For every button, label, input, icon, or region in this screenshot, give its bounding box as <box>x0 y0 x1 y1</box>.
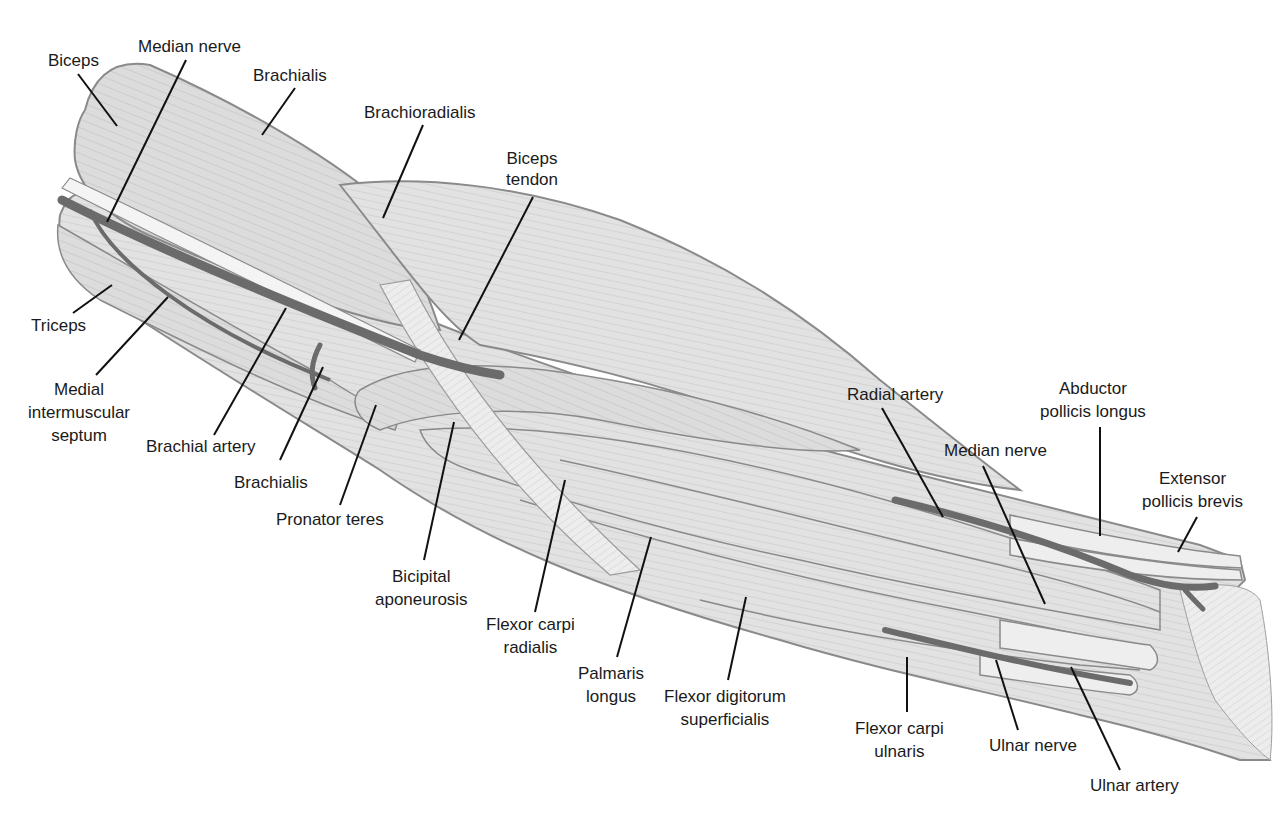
label-flexor-carpi-radialis: Flexor carpi radialis <box>486 613 575 659</box>
label-brachialis-top: Brachialis <box>253 65 327 86</box>
label-triceps: Triceps <box>31 315 86 336</box>
label-flexor-carpi-ulnaris: Flexor carpi ulnaris <box>855 717 944 763</box>
label-median-nerve-top: Median nerve <box>138 36 241 57</box>
label-brachial-artery: Brachial artery <box>146 436 256 457</box>
label-pronator-teres: Pronator teres <box>276 509 384 530</box>
anatomy-diagram: Biceps Median nerve Brachialis Brachiora… <box>0 0 1288 815</box>
label-abductor-pollicis-longus: Abductor pollicis longus <box>1040 377 1146 423</box>
label-radial-artery: Radial artery <box>847 384 943 405</box>
label-bicipital-aponeurosis: Bicipital aponeurosis <box>375 565 468 611</box>
label-extensor-pollicis-brevis: Extensor pollicis brevis <box>1142 467 1243 513</box>
label-flexor-digitorum-superficialis: Flexor digitorum superficialis <box>664 685 786 731</box>
label-brachioradialis: Brachioradialis <box>364 102 476 123</box>
label-medial-intermuscular-septum: Medial intermuscular septum <box>28 378 130 447</box>
label-palmaris-longus: Palmaris longus <box>578 662 644 708</box>
label-biceps-tendon: Biceps tendon <box>506 148 558 190</box>
label-ulnar-artery: Ulnar artery <box>1090 775 1179 796</box>
label-ulnar-nerve: Ulnar nerve <box>989 735 1077 756</box>
label-biceps: Biceps <box>48 50 99 71</box>
label-brachialis-bottom: Brachialis <box>234 472 308 493</box>
label-median-nerve-right: Median nerve <box>944 440 1047 461</box>
